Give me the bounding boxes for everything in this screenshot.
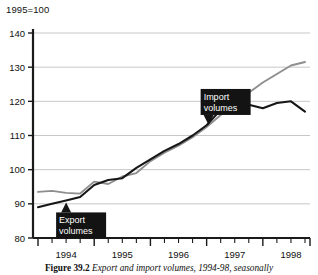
x-tick-label: 1994 [56, 249, 77, 260]
series-line-export-volumes [38, 101, 305, 207]
callout-label-line: Export [59, 215, 86, 225]
figure-caption-text: Export and import volumes, 1994-98, seas… [92, 263, 273, 273]
y-tick-label: 130 [9, 62, 25, 73]
series-line-import-volumes [38, 62, 305, 194]
y-tick-label: 140 [9, 28, 25, 39]
x-tick-label: 1996 [168, 249, 189, 260]
figure-caption: Figure 39.2 Export and import volumes, 1… [0, 263, 318, 273]
y-tick-label: 100 [9, 164, 25, 175]
x-tick-label: 1997 [224, 249, 245, 260]
x-tick-label: 1998 [280, 249, 301, 260]
callout-label-line: volumes [204, 103, 238, 113]
annotation-callout-export: Exportvolumes [56, 202, 106, 238]
y-tick-label: 80 [14, 233, 25, 244]
chart-plot: 809010011012013014019941995199619971998E… [0, 0, 318, 275]
y-tick-label: 110 [10, 130, 25, 141]
callout-label-line: Import [204, 92, 230, 102]
x-tick-label: 1995 [112, 249, 133, 260]
y-tick-label: 120 [9, 96, 25, 107]
y-tick-label: 90 [14, 198, 25, 209]
annotation-callout-import: Importvolumes [201, 89, 251, 125]
callout-label-line: volumes [59, 226, 93, 236]
figure-container: 1995=100 8090100110120130140199419951996… [0, 0, 318, 275]
figure-number: Figure 39.2 [45, 263, 90, 273]
